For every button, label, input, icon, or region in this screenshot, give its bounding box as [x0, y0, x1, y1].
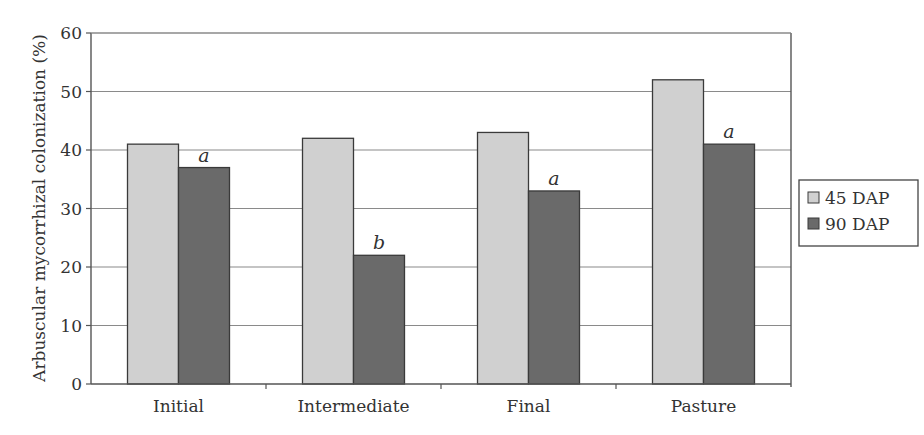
- bar-90-dap: [179, 168, 230, 384]
- y-tick-labels: 0102030405060: [60, 23, 82, 394]
- y-tick-label: 60: [60, 23, 82, 43]
- y-tick-label: 30: [60, 199, 82, 219]
- significance-letter: b: [373, 231, 385, 253]
- bar-45-dap: [128, 144, 179, 384]
- significance-letter: a: [723, 120, 734, 142]
- bar-chart: 0102030405060 InitialIntermediateFinalPa…: [0, 0, 924, 435]
- y-tick-label: 10: [60, 316, 82, 336]
- bar-45-dap: [653, 80, 704, 384]
- category-label: Pasture: [671, 396, 737, 416]
- bar-90-dap: [704, 144, 755, 384]
- bar-45-dap: [478, 132, 529, 384]
- bar-90-dap: [354, 255, 405, 384]
- y-tick-label: 40: [60, 140, 82, 160]
- legend-swatch: [808, 192, 819, 203]
- y-tick-label: 50: [60, 82, 82, 102]
- x-category-labels: InitialIntermediateFinalPasture: [153, 396, 736, 416]
- category-label: Initial: [153, 396, 204, 416]
- legend: 45 DAP90 DAP: [799, 180, 918, 246]
- legend-swatch: [808, 218, 819, 229]
- legend-label: 45 DAP: [825, 188, 889, 208]
- legend-label: 90 DAP: [825, 214, 889, 234]
- bars: [128, 80, 755, 384]
- significance-letter: a: [198, 144, 209, 166]
- category-label: Final: [507, 396, 551, 416]
- y-tick-label: 0: [71, 374, 82, 394]
- category-label: Intermediate: [297, 396, 409, 416]
- significance-letter: a: [548, 167, 559, 189]
- bar-90-dap: [529, 191, 580, 384]
- bar-45-dap: [303, 138, 354, 384]
- y-tick-label: 20: [60, 257, 82, 277]
- y-axis-label: Arbuscular mycorrhizal colonization (%): [29, 34, 49, 383]
